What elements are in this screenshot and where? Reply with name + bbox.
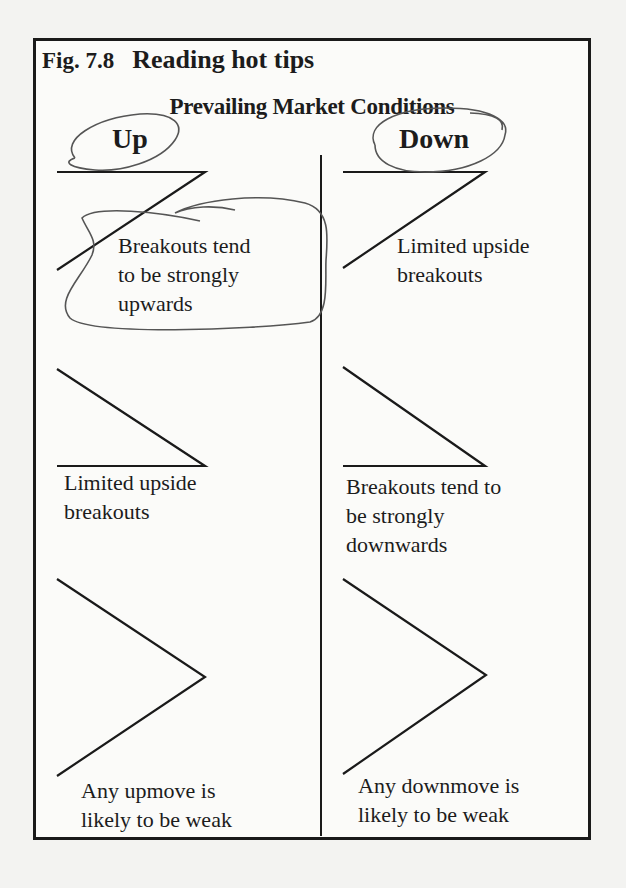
pen-circle-down-icon (373, 108, 506, 172)
chevron-pattern-icon (57, 579, 486, 776)
pen-circle-up-icon (69, 114, 179, 170)
cut-off-body-text (0, 868, 626, 888)
pen-circle-breakout-up-icon (65, 198, 327, 330)
diagram-lines (0, 0, 626, 888)
descending-triangle-icon (57, 367, 485, 466)
ascending-triangle-icon (57, 172, 485, 270)
